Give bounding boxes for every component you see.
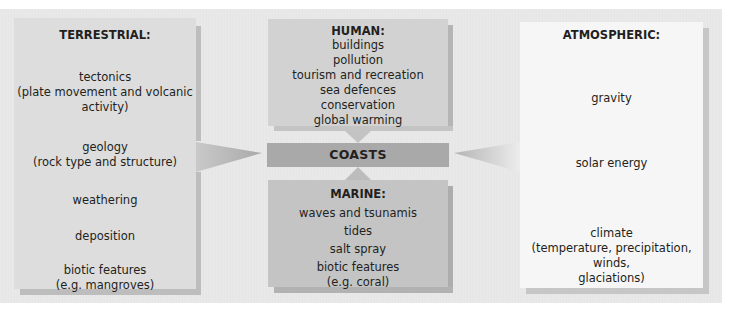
atmospheric-shadow: [526, 288, 709, 294]
human-item: pollution: [268, 53, 448, 68]
human-title: HUMAN:: [268, 24, 448, 39]
terrestrial-item-geology: geology (rock type and structure): [14, 140, 196, 170]
atmospheric-title: ATMOSPHERIC:: [520, 28, 703, 43]
human-item: sea defences: [268, 83, 448, 98]
terrestrial-item-biotic: biotic features (e.g. mangroves): [14, 263, 196, 293]
human-items: buildings pollution tourism and recreati…: [268, 38, 448, 128]
terrestrial-item-deposition: deposition: [14, 229, 196, 244]
atmospheric-item-climate: climate (temperature, precipitation, win…: [520, 226, 703, 286]
marine-item-tides: tides: [268, 224, 448, 239]
atmospheric-shadow: [703, 28, 709, 294]
marine-item-biotic: biotic features (e.g. coral): [268, 260, 448, 290]
human-item: conservation: [268, 98, 448, 113]
marine-box: MARINE: waves and tsunamis tides salt sp…: [268, 180, 448, 287]
terrestrial-shadow: [196, 26, 201, 141]
terrestrial-item-weathering: weathering: [14, 193, 196, 208]
marine-shadow: [448, 186, 453, 293]
human-item: global warming: [268, 113, 448, 128]
atmospheric-box: ATMOSPHERIC: gravity solar energy climat…: [520, 22, 703, 288]
atmospheric-item-gravity: gravity: [520, 91, 703, 106]
marine-title: MARINE:: [268, 187, 448, 202]
marine-item-salt-spray: salt spray: [268, 242, 448, 257]
terrestrial-item-tectonics: tectonics (plate movement and volcanic a…: [14, 70, 196, 115]
terrestrial-title: TERRESTRIAL:: [14, 28, 196, 43]
marine-item-waves: waves and tsunamis: [268, 206, 448, 221]
coasts-center-bar: COASTS: [267, 143, 449, 167]
human-item: buildings: [268, 38, 448, 53]
human-item: tourism and recreation: [268, 68, 448, 83]
terrestrial-box: TERRESTRIAL: tectonics (plate movement a…: [14, 18, 196, 289]
atmospheric-item-solar-energy: solar energy: [520, 156, 703, 171]
terrestrial-shadow: [196, 172, 201, 295]
human-box: HUMAN: buildings pollution tourism and r…: [268, 19, 448, 126]
human-shadow: [448, 25, 453, 131]
